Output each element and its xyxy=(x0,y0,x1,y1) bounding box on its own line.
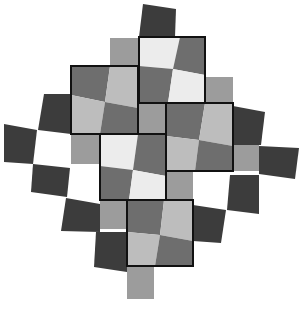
checkerboard-illusion-graphic xyxy=(0,0,304,309)
square-d-q3 xyxy=(166,136,199,171)
lower-left-gray-square xyxy=(100,200,127,229)
bottom-gray-square xyxy=(127,266,154,299)
square-a-q3 xyxy=(139,66,173,103)
left-dark-tile-4 xyxy=(61,198,100,232)
left-dark-tile-3 xyxy=(31,164,70,197)
top-left-gray-square xyxy=(110,38,139,66)
square-a-q1 xyxy=(139,37,180,69)
square-c-q3 xyxy=(100,166,133,200)
square-d-q1 xyxy=(166,103,205,140)
right-mid-gray-square xyxy=(233,145,259,171)
square-e-q1 xyxy=(127,200,164,235)
square-c-q1 xyxy=(100,134,138,170)
right-dark-tile-2 xyxy=(259,146,299,179)
square-c-q2 xyxy=(133,134,166,176)
top-dark-tile xyxy=(139,4,176,37)
right-dark-tile-4 xyxy=(193,205,226,243)
lower-mid-gray-square xyxy=(166,171,193,200)
square-d-q2 xyxy=(199,103,233,146)
right-dark-tile-1 xyxy=(233,106,265,145)
square-e-q3 xyxy=(127,232,160,266)
right-upper-gray-square xyxy=(205,77,233,103)
center-small-gray-square xyxy=(138,103,166,134)
square-e-q2 xyxy=(160,200,193,241)
illusion-figure: Checkerboard tile illusion xyxy=(0,0,304,309)
left-dark-tile-2 xyxy=(4,124,37,164)
left-mid-gray-square xyxy=(71,134,100,164)
square-b-q2 xyxy=(105,66,138,108)
left-dark-tile-5 xyxy=(94,232,127,272)
square-a-q4 xyxy=(168,69,205,103)
right-dark-tile-3 xyxy=(227,175,259,214)
